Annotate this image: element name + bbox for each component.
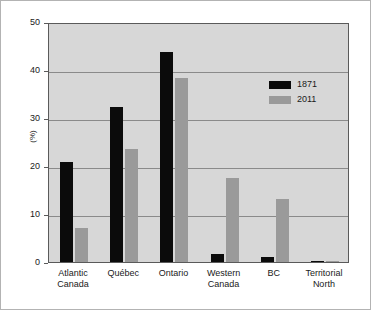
- plot-area: [48, 23, 349, 263]
- bar: [75, 228, 88, 262]
- y-axis-tick-label: 50: [18, 18, 40, 27]
- y-axis-tick-label: 30: [18, 114, 40, 123]
- bar: [211, 254, 224, 262]
- gridline: [49, 216, 348, 217]
- bar: [110, 107, 123, 262]
- legend-item-1871[interactable]: 1871: [269, 77, 317, 92]
- y-axis-title: (%): [28, 120, 37, 154]
- legend-item-2011[interactable]: 2011: [269, 92, 317, 107]
- y-axis-tick-label: 0: [18, 258, 40, 267]
- bar: [60, 162, 73, 262]
- legend-swatch-icon-2011: [269, 96, 291, 104]
- chart-legend: 1871 2011: [269, 77, 317, 107]
- bar: [276, 199, 289, 262]
- gridline: [49, 72, 348, 73]
- bar: [326, 261, 339, 262]
- gridline: [49, 168, 348, 169]
- bar: [160, 52, 173, 262]
- y-axis-tick-label: 40: [18, 66, 40, 75]
- gridline: [49, 120, 348, 121]
- bar: [125, 149, 138, 262]
- legend-label-1871: 1871: [297, 80, 317, 89]
- bar: [175, 78, 188, 262]
- y-axis-tick-label: 20: [18, 162, 40, 171]
- bar: [311, 261, 324, 262]
- bar: [226, 178, 239, 263]
- bar: [261, 257, 274, 262]
- y-axis-tick-mark: [44, 263, 48, 264]
- chart-figure: (%) 01020304050 Atlantic CanadaQuébecOnt…: [0, 0, 371, 310]
- x-axis-tick-label: Territorial North: [292, 268, 356, 290]
- y-axis-tick-label: 10: [18, 210, 40, 219]
- legend-label-2011: 2011: [297, 95, 316, 104]
- legend-swatch-icon-1871: [269, 81, 291, 89]
